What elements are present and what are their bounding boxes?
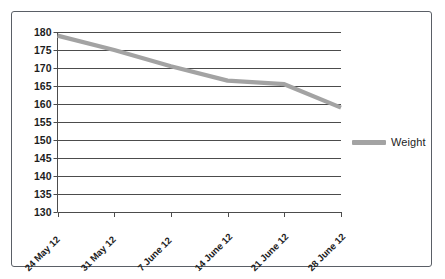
chart-plot-area: 180175170165160155150145140135130 24 May…: [0, 0, 445, 279]
legend-label-weight: Weight: [391, 136, 426, 148]
y-axis-tick-label: 180: [18, 27, 52, 38]
chart-screenshot: 180175170165160155150145140135130 24 May…: [0, 0, 445, 279]
legend-swatch-weight: [352, 140, 386, 145]
y-axis-tick-label: 170: [18, 63, 52, 74]
y-axis-ticks: [54, 33, 58, 213]
chart-legend: Weight: [352, 136, 426, 148]
y-axis-tick-label: 140: [18, 171, 52, 182]
y-axis-tick-label: 145: [18, 153, 52, 164]
y-axis-tick-label: 155: [18, 117, 52, 128]
gridlines: [58, 33, 342, 195]
series-line-weight: [58, 36, 342, 108]
y-axis-tick-label: 160: [18, 99, 52, 110]
y-axis-tick-label: 165: [18, 81, 52, 92]
y-axis-tick-label: 130: [18, 207, 52, 218]
y-axis-tick-label: 135: [18, 189, 52, 200]
y-axis-tick-label: 175: [18, 45, 52, 56]
y-axis-tick-label: 150: [18, 135, 52, 146]
